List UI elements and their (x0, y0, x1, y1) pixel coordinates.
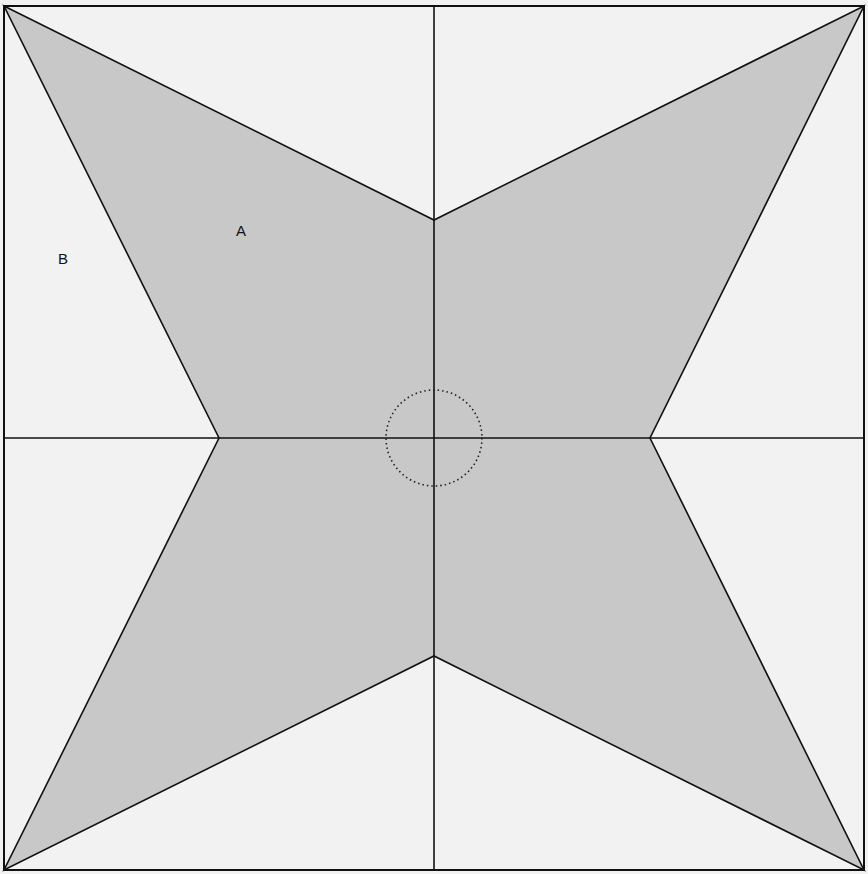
label-b: B (58, 250, 68, 267)
star-square-figure: A B (0, 0, 868, 874)
label-a: A (236, 222, 246, 239)
diagram-canvas: A B (0, 0, 868, 874)
